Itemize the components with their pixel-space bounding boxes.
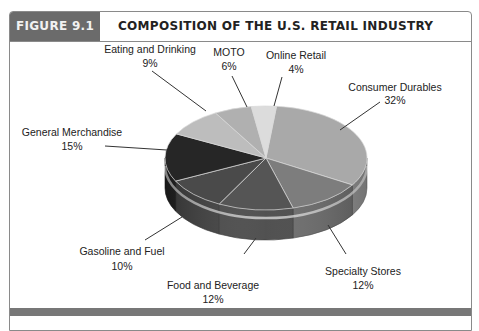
- svg-text:Eating and Drinking: Eating and Drinking: [104, 43, 196, 55]
- svg-text:12%: 12%: [202, 293, 223, 305]
- label-eating-and-drinking: Eating and Drinking 9%: [104, 43, 206, 111]
- svg-text:32%: 32%: [384, 94, 405, 106]
- svg-text:General Merchandise: General Merchandise: [22, 126, 123, 138]
- label-gasoline-and-fuel: Gasoline and Fuel 10%: [79, 217, 182, 272]
- pie-top-slices: [165, 106, 367, 210]
- svg-text:Food and Beverage: Food and Beverage: [167, 279, 259, 291]
- svg-text:4%: 4%: [288, 63, 303, 75]
- label-online-retail: Online Retail 4%: [266, 49, 326, 106]
- svg-text:MOTO: MOTO: [213, 46, 244, 58]
- label-general-merchandise: General Merchandise 15%: [22, 126, 167, 152]
- figure-footer-bar: [10, 308, 471, 316]
- svg-text:10%: 10%: [111, 260, 132, 272]
- svg-text:15%: 15%: [61, 140, 82, 152]
- label-moto: MOTO 6%: [213, 46, 247, 107]
- svg-text:6%: 6%: [221, 60, 236, 72]
- svg-text:Specialty Stores: Specialty Stores: [325, 265, 401, 277]
- label-food-and-beverage: Food and Beverage 12%: [167, 238, 259, 305]
- svg-text:Consumer Durables: Consumer Durables: [348, 81, 441, 93]
- svg-text:9%: 9%: [142, 57, 157, 69]
- label-specialty-stores: Specialty Stores 12%: [325, 225, 401, 291]
- label-consumer-durables: Consumer Durables 32%: [340, 81, 442, 130]
- svg-text:12%: 12%: [352, 279, 373, 291]
- svg-text:Gasoline and Fuel: Gasoline and Fuel: [79, 245, 164, 257]
- svg-text:Online Retail: Online Retail: [266, 49, 326, 61]
